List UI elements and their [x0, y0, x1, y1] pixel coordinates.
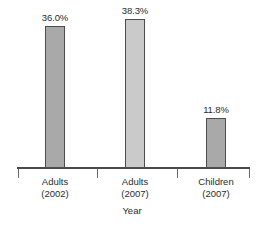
plot-area: 36.0% 38.3% 11.8% Adults (2002) Adults (… [0, 0, 264, 227]
category-label-line2: (2007) [186, 188, 246, 200]
category-label-children-2007: Children (2007) [186, 176, 246, 200]
axis-tick-divider-1 [97, 169, 98, 178]
category-label-adults-2007: Adults (2007) [105, 176, 165, 200]
category-label-adults-2002: Adults (2002) [25, 176, 85, 200]
category-label-line1: Adults [42, 176, 68, 187]
bar-adults-2002[interactable] [45, 26, 65, 168]
bar-chart: 36.0% 38.3% 11.8% Adults (2002) Adults (… [0, 0, 264, 227]
category-label-line2: (2007) [105, 188, 165, 200]
category-label-line2: (2002) [25, 188, 85, 200]
bar-fill-children-2007 [207, 119, 225, 167]
bar-value-label-children-2007: 11.8% [186, 104, 246, 115]
axis-tick-left-end [18, 169, 19, 178]
bar-fill-adults-2007 [126, 20, 144, 167]
bar-value-label-adults-2007: 38.3% [105, 5, 165, 16]
bar-children-2007[interactable] [206, 118, 226, 168]
category-label-line1: Children [198, 176, 233, 187]
bar-fill-adults-2002 [46, 27, 64, 167]
category-label-line1: Adults [122, 176, 148, 187]
bar-value-label-adults-2002: 36.0% [25, 12, 85, 23]
axis-tick-right-end [249, 169, 250, 178]
x-axis-title: Year [0, 205, 264, 216]
bar-adults-2007[interactable] [125, 19, 145, 168]
axis-tick-divider-2 [177, 169, 178, 178]
